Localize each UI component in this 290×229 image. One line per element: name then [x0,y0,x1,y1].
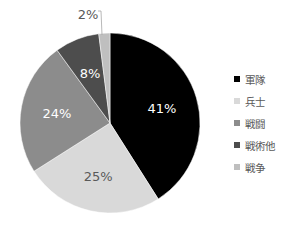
legend-label: 兵士 [245,94,265,109]
legend-item-3: 戦術他 [234,134,275,156]
legend-swatch [234,164,240,170]
slice-label-3: 8% [80,65,101,80]
legend-swatch [234,98,240,104]
slice-label-2: 24% [43,105,72,120]
legend-label: 軍隊 [245,72,265,87]
legend-item-0: 軍隊 [234,68,275,90]
legend-swatch [234,142,240,148]
legend: 軍隊 兵士 戦闘 戦術他 戦争 [234,68,275,178]
slice-label-4: 2% [78,7,99,22]
legend-item-2: 戦闘 [234,112,275,134]
legend-label: 戦闘 [245,116,265,131]
pie-chart [0,0,230,229]
legend-swatch [234,76,240,82]
legend-label: 戦争 [245,160,265,175]
slice-label-1: 25% [84,168,113,183]
legend-item-4: 戦争 [234,156,275,178]
legend-label: 戦術他 [245,138,275,153]
slice-label-0: 41% [147,100,176,115]
legend-swatch [234,120,240,126]
legend-item-1: 兵士 [234,90,275,112]
